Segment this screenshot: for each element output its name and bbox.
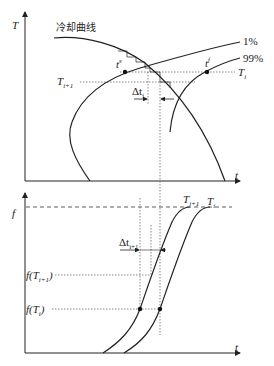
delta-ti1-main: Δt xyxy=(119,236,129,248)
t-start-sup: s xyxy=(119,57,122,65)
finish-curve-99pct xyxy=(170,58,240,132)
cooling-staircase xyxy=(118,51,170,88)
f-ti-close: ) xyxy=(41,303,45,315)
delta-ti-main: Δt xyxy=(132,85,142,97)
bottom-y-axis-label: f xyxy=(12,208,15,219)
ti-label: Ti xyxy=(238,67,246,81)
point-t-finish xyxy=(205,70,209,74)
t-finish-label: tf xyxy=(205,57,210,69)
delta-ti1-sub: i+1 xyxy=(129,243,138,251)
f-ti1-sub: i+1 xyxy=(39,276,49,284)
point-f-ti-2 xyxy=(158,307,162,311)
ti-sub: i xyxy=(244,73,246,81)
cooling-curve xyxy=(54,37,225,181)
curve-ti-sub: i xyxy=(213,202,215,210)
sigmoid-curve-ti xyxy=(124,207,210,353)
delta-ti-label: Δti xyxy=(132,86,144,100)
start-curve-label: 1% xyxy=(243,36,258,47)
curve-label-ti: Ti xyxy=(207,196,215,210)
delta-ti-sub: i xyxy=(142,92,144,100)
f-ti1-close: ) xyxy=(49,269,53,281)
curve-label-ti1: Ti+1 xyxy=(183,194,199,208)
f-ti-main: f(T xyxy=(26,303,39,315)
point-f-ti-1 xyxy=(138,307,142,311)
top-y-axis-label: T xyxy=(12,20,18,31)
bottom-plot xyxy=(25,193,240,353)
point-t-start xyxy=(123,70,127,74)
delta-ti1-label: Δti+1 xyxy=(119,237,139,251)
bottom-x-axis-label: t xyxy=(235,342,238,353)
t-finish-sup: f xyxy=(208,56,210,64)
curve-ti1-sub: i+1 xyxy=(189,200,199,208)
finish-curve-label: 99% xyxy=(243,53,263,64)
f-ti1-main: f(T xyxy=(26,269,39,281)
ti1-sub: i+1 xyxy=(63,82,73,90)
start-curve-1pct xyxy=(70,42,240,181)
ti1-label: Ti+1 xyxy=(57,76,73,90)
cooling-curve-label: 冷却曲线 xyxy=(56,23,96,33)
f-ti-label: f(Ti) xyxy=(26,304,44,318)
t-start-label: ts xyxy=(116,58,122,70)
top-x-axis-label: t xyxy=(235,170,238,181)
sigmoid-curve-ti1 xyxy=(103,207,190,353)
f-ti1-label: f(Ti+1) xyxy=(26,270,53,284)
